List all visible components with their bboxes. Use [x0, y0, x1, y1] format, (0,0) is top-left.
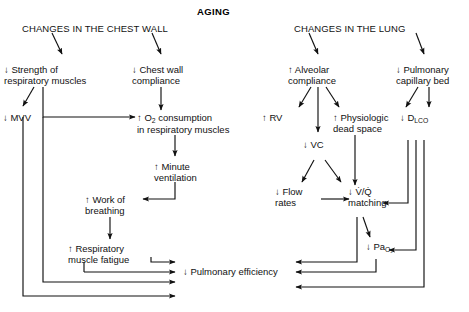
node-work-of-breathing: ↑ Work of breathing: [85, 194, 125, 216]
node-dlco: ↓ DLCO: [400, 112, 428, 124]
node-line: ↓ Pulmonary efficiency: [183, 266, 278, 277]
node-chest-wall-compliance: ↓ Chest wall compliance: [132, 64, 183, 86]
node-pulmonary-efficiency: ↓ Pulmonary efficiency: [183, 266, 278, 277]
diagram-title: AGING: [197, 6, 230, 17]
node-line: rates: [275, 197, 302, 208]
node-vq-matching: ↓ V̇/Q̇ matching: [348, 186, 387, 208]
node-line: muscle fatigue: [68, 254, 129, 265]
node-strength-respiratory-muscles: ↓ Strength of respiratory muscles: [4, 64, 86, 86]
node-line: ↓ V̇/Q̇: [348, 186, 387, 197]
node-mvv: ↓ MVV: [3, 112, 31, 123]
node-line: ↓ Chest wall: [132, 64, 183, 75]
node-alveolar-compliance: ↑ Alveolar compliance: [288, 64, 336, 86]
node-physiologic-dead-space: ↑ Physiologic dead space: [333, 112, 388, 134]
node-line: ↑ Physiologic: [333, 112, 388, 123]
o2-suffix: consumption: [156, 112, 213, 123]
node-line: ↑ Work of: [85, 194, 125, 205]
pao2-subscript: O₂: [385, 246, 393, 253]
node-line: dead space: [333, 123, 388, 134]
node-pao2: ↓ PaO₂: [366, 241, 393, 253]
heading-lung: CHANGES IN THE LUNG: [294, 23, 406, 34]
o2-subscript: 2: [152, 117, 156, 124]
node-line: ↑ O2 consumption: [137, 112, 229, 124]
node-vc: ↓ VC: [303, 139, 324, 150]
node-line: in respiratory muscles: [137, 124, 229, 135]
node-line: ↑ Alveolar: [288, 64, 336, 75]
node-line: ↓ Flow: [275, 186, 302, 197]
node-flow-rates: ↓ Flow rates: [275, 186, 302, 208]
node-line: ↓ Strength of: [4, 64, 86, 75]
node-line: ↓ Pulmonary: [396, 64, 449, 75]
node-line: ↑ Respiratory: [68, 243, 129, 254]
node-line: ↑ Minute: [154, 161, 197, 172]
node-line: respiratory muscles: [4, 75, 86, 86]
node-line: ↓ DLCO: [400, 112, 428, 124]
node-respiratory-muscle-fatigue: ↑ Respiratory muscle fatigue: [68, 243, 129, 265]
node-line: matching: [348, 197, 387, 208]
node-line: ↑ RV: [262, 112, 282, 123]
o2-prefix: ↑ O: [137, 112, 152, 123]
diagram-canvas: AGING CHANGES IN THE CHEST WALL CHANGES …: [0, 0, 469, 312]
dlco-subscript: LCO: [414, 117, 428, 124]
node-line: ventilation: [154, 172, 197, 183]
node-minute-ventilation: ↑ Minute ventilation: [154, 161, 197, 183]
node-line: compliance: [288, 75, 336, 86]
node-line: ↓ PaO₂: [366, 241, 393, 253]
node-line: breathing: [85, 205, 125, 216]
pao2-prefix: ↓ Pa: [366, 241, 385, 252]
dlco-prefix: ↓ D: [400, 112, 414, 123]
node-line: compliance: [132, 75, 183, 86]
node-rv: ↑ RV: [262, 112, 282, 123]
node-pulmonary-capillary-bed: ↓ Pulmonary capillary bed: [396, 64, 449, 86]
node-line: ↓ MVV: [3, 112, 31, 123]
node-line: ↓ VC: [303, 139, 324, 150]
node-line: capillary bed: [396, 75, 449, 86]
node-o2-consumption: ↑ O2 consumption in respiratory muscles: [137, 112, 229, 135]
heading-chest-wall: CHANGES IN THE CHEST WALL: [22, 23, 168, 34]
